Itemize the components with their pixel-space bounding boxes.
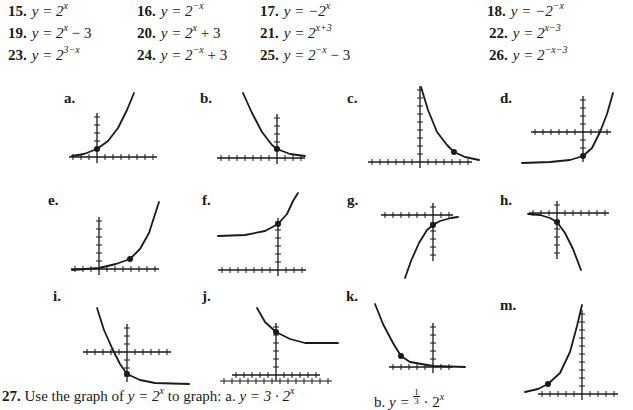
- graph-label-f: f.: [202, 192, 211, 209]
- plotted-point: [124, 371, 130, 377]
- graph-m: [525, 305, 618, 400]
- graph-label-m: m.: [500, 297, 516, 314]
- plotted-point: [554, 219, 560, 225]
- graph-label-a: a.: [64, 90, 75, 107]
- graph-label-j: j.: [202, 288, 211, 305]
- graph-a: [69, 93, 157, 163]
- plotted-point: [127, 256, 133, 262]
- graph-label-i: i.: [53, 288, 61, 305]
- problem-27: 27. Use the graph of y = 2x to graph: a.…: [2, 388, 294, 405]
- graph-label-c: c.: [347, 90, 357, 107]
- exponential-curve: [72, 202, 159, 270]
- graph-label-k: k.: [346, 288, 358, 305]
- plotted-point: [580, 153, 586, 159]
- graph-h: [528, 201, 609, 270]
- exponential-curve: [375, 304, 465, 367]
- exponential-curve: [97, 308, 189, 384]
- graph-f: [218, 193, 306, 276]
- graph-g: [381, 203, 458, 278]
- exponential-curve: [421, 87, 479, 160]
- graph-label-d: d.: [500, 90, 512, 107]
- graph-d: [522, 93, 613, 163]
- graph-j: [232, 308, 338, 381]
- problem-27-number: 27.: [2, 388, 21, 404]
- exponential-curve: [243, 93, 305, 156]
- plotted-point: [94, 146, 100, 152]
- plotted-point: [274, 146, 280, 152]
- graph-c: [368, 86, 479, 168]
- plotted-point: [398, 353, 404, 359]
- graph-label-h: h.: [500, 192, 512, 209]
- exponential-curve: [218, 193, 298, 236]
- exponential-curve: [257, 308, 338, 343]
- problem-27-part-b: b. y = 13 · 2x: [374, 388, 444, 410]
- plotted-point: [545, 381, 551, 387]
- exponential-curve: [72, 93, 134, 156]
- graph-b: [217, 93, 305, 164]
- graph-k: [375, 304, 465, 373]
- graph-label-e: e.: [48, 192, 58, 209]
- graph-label-b: b.: [200, 90, 212, 107]
- graphs-canvas: [0, 0, 633, 410]
- graph-label-g: g.: [347, 192, 358, 209]
- exponential-curve: [522, 93, 613, 163]
- graph-e: [71, 202, 159, 275]
- plotted-point: [273, 329, 279, 335]
- plotted-point: [430, 222, 436, 228]
- exponential-curve: [525, 305, 582, 392]
- plotted-point: [275, 221, 281, 227]
- graph-i: [83, 308, 189, 384]
- plotted-point: [451, 149, 457, 155]
